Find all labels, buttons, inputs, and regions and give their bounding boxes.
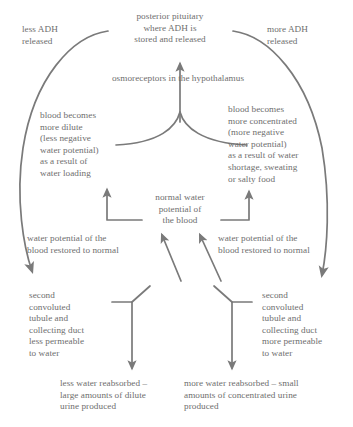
- node-water-potential-restored-right: water potential of the blood restored to…: [218, 233, 333, 256]
- node-less-water-reabsorbed: less water reabsorbed – large amounts of…: [60, 378, 178, 413]
- node-osmoreceptors-hypothalamus: osmoreceptors in the hypothalamus: [88, 73, 268, 85]
- node-less-adh-released: less ADH released: [22, 24, 86, 47]
- elbow-right-tubule-to-urine: [232, 302, 252, 368]
- node-more-adh-released: more ADH released: [267, 24, 331, 47]
- elbow-left-tubule-to-urine: [112, 302, 132, 368]
- node-posterior-pituitary: posterior pituitary where ADH is stored …: [112, 11, 228, 46]
- link-right-elbow-up: [214, 286, 232, 302]
- link-left-elbow-up: [132, 286, 150, 302]
- node-blood-more-concentrated: blood becomes more concentrated (more ne…: [228, 104, 338, 185]
- elbow-centre-to-concentrated: [221, 192, 249, 220]
- node-water-potential-restored-left: water potential of the blood restored to…: [27, 233, 137, 256]
- arrow-left-restored-to-normal: [162, 235, 181, 281]
- node-normal-water-potential: normal water potential of the blood: [144, 192, 216, 227]
- node-tubule-more-permeable: second convoluted tubule and collecting …: [262, 290, 348, 360]
- node-tubule-less-permeable: second convoluted tubule and collecting …: [29, 290, 115, 360]
- adh-feedback-diagram: posterior pituitary where ADH is stored …: [0, 0, 353, 427]
- node-blood-more-dilute: blood becomes more dilute (less negative…: [40, 110, 140, 180]
- elbow-centre-to-dilute: [107, 190, 142, 220]
- node-more-water-reabsorbed: more water reabsorbed – small amounts of…: [184, 378, 336, 413]
